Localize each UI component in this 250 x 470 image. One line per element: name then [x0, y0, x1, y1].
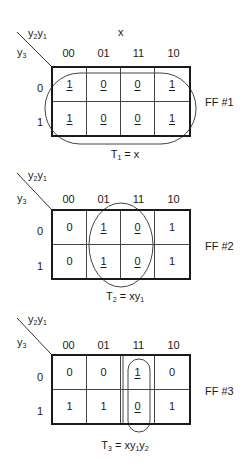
cell: 0	[121, 390, 155, 424]
row-header: 0	[37, 371, 43, 383]
cell: 0	[87, 356, 121, 390]
toggle-equation: T3 = xy1y2	[0, 439, 250, 452]
column-header: 01	[86, 339, 121, 351]
top-variable-label: y2y1	[28, 314, 47, 326]
side-variable-label: y3	[17, 337, 26, 349]
kmap-grid: 0 0 1 0 1 1 0 1	[51, 354, 191, 425]
cell: 1	[121, 356, 155, 390]
kmap-ff3: y2y1 y3 00 01 11 10 0 1 0 0 1 0 1 1 0 1 …	[0, 0, 250, 470]
column-header: 00	[51, 339, 86, 351]
cell: 0	[53, 356, 87, 390]
cell: 0	[155, 356, 189, 390]
flipflop-label: FF #3	[205, 385, 234, 397]
row-header: 1	[37, 405, 43, 417]
column-header: 11	[121, 339, 156, 351]
column-header: 10	[156, 339, 191, 351]
cell: 1	[155, 390, 189, 424]
cell: 1	[53, 390, 87, 424]
cell: 1	[87, 390, 121, 424]
